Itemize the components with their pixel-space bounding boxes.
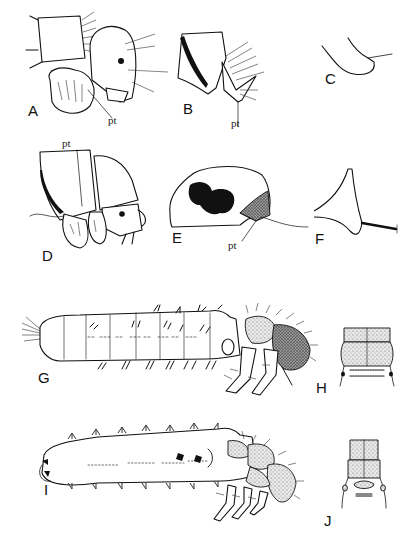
- panel-g-drawing: [20, 305, 310, 395]
- panel-e: pt: [170, 165, 300, 245]
- panel-d-drawing: [30, 150, 160, 250]
- panel-i-drawing: [38, 425, 308, 525]
- panel-b-drawing: [176, 28, 296, 128]
- panel-b-pt-annotation: pt: [231, 118, 240, 129]
- panel-d: pt: [30, 150, 160, 250]
- panel-f-label: F: [315, 231, 324, 246]
- panel-d-label: D: [42, 248, 53, 263]
- panel-b: pt: [176, 28, 296, 128]
- panel-j-drawing: [340, 440, 400, 510]
- panel-e-pt-annotation: pt: [228, 240, 237, 251]
- panel-i-label: I: [44, 482, 48, 497]
- panel-c-label: C: [325, 71, 336, 86]
- panel-a-drawing: [20, 10, 180, 120]
- panel-i: [38, 425, 308, 525]
- panel-e-label: E: [172, 230, 182, 245]
- panel-f: [312, 165, 412, 245]
- panel-a-label: A: [28, 103, 38, 118]
- panel-d-pt-annotation: pt: [62, 138, 71, 149]
- panel-h: [340, 326, 400, 386]
- panel-g-label: G: [38, 370, 50, 385]
- panel-g: [20, 305, 310, 395]
- panel-h-label: H: [316, 380, 327, 395]
- panel-h-drawing: [340, 326, 400, 386]
- panel-e-drawing: [170, 165, 300, 245]
- panel-b-label: B: [183, 101, 193, 116]
- panel-a-pt-annotation: pt: [108, 115, 117, 126]
- panel-f-drawing: [312, 165, 412, 245]
- panel-a: pt: [20, 10, 180, 120]
- panel-j-label: J: [324, 513, 332, 528]
